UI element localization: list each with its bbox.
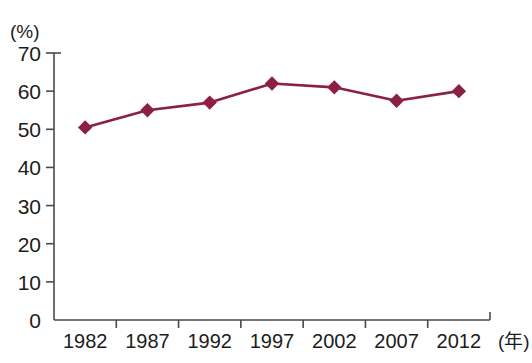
line-chart: (%)7060504030201001982198719921997200220… (0, 0, 532, 363)
data-point-1992[interactable] (203, 95, 217, 109)
x-axis-label-2002: 2002 (312, 330, 357, 352)
data-point-1997[interactable] (265, 76, 279, 90)
data-point-1982[interactable] (78, 120, 92, 134)
x-axis-label-1987: 1987 (125, 330, 170, 352)
y-axis-label-50: 50 (18, 118, 41, 141)
x-axis-label-1982: 1982 (63, 330, 108, 352)
y-axis-label-0: 0 (29, 309, 41, 332)
x-axis-unit-label: (年) (498, 331, 530, 352)
y-axis-label-40: 40 (18, 156, 41, 179)
x-axis-label-1992: 1992 (187, 330, 232, 352)
data-point-1987[interactable] (140, 103, 154, 117)
y-axis-label-30: 30 (18, 195, 41, 218)
x-axis-label-1997: 1997 (250, 330, 295, 352)
x-axis-label-2007: 2007 (374, 330, 419, 352)
data-point-2012[interactable] (452, 84, 466, 98)
chart-canvas: (%)7060504030201001982198719921997200220… (0, 0, 532, 363)
y-axis-unit-label: (%) (10, 21, 40, 42)
y-axis-label-60: 60 (18, 80, 41, 103)
data-point-2002[interactable] (327, 80, 341, 94)
y-axis-label-20: 20 (18, 233, 41, 256)
data-point-2007[interactable] (389, 93, 403, 107)
y-axis-label-10: 10 (18, 271, 41, 294)
y-axis-label-70: 70 (18, 42, 41, 65)
x-axis-label-2012: 2012 (437, 330, 482, 352)
